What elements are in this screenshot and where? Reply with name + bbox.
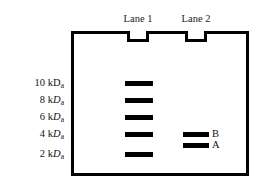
mw-label-10kda: 10 kDa <box>35 77 64 90</box>
mw-sub-6: a <box>61 115 64 124</box>
gel-electrophoresis-figure: Lane 1 Lane 2 10 kDa 8 kDa 6 kDa 4 kDa 2… <box>0 0 279 189</box>
mw-sub-4: a <box>61 132 64 141</box>
mw-unit-d-6: D <box>53 111 61 122</box>
mw-unit-d-2: D <box>53 148 61 159</box>
lane1-band-8kda <box>125 98 153 103</box>
mw-unit-d-4: D <box>53 128 61 139</box>
mw-unit-d-8: D <box>53 94 61 105</box>
lane2-band-a-label: A <box>212 139 220 150</box>
mw-label-2kda: 2 kDa <box>40 148 64 161</box>
lane2-band-a <box>183 143 209 148</box>
mw-label-4kda: 4 kDa <box>40 128 64 141</box>
lane1-band-2kda <box>125 152 153 157</box>
lane1-band-10kda <box>125 81 153 86</box>
lane2-band-b <box>183 132 209 137</box>
mw-value-10: 10 <box>35 77 46 88</box>
mw-label-8kda: 8 kDa <box>40 94 64 107</box>
lane1-band-4kda <box>125 132 153 137</box>
mw-unit-d-10: D <box>53 77 61 88</box>
gel-outline-path <box>73 33 248 175</box>
mw-sub-2: a <box>61 152 64 161</box>
mw-sub-10: a <box>61 81 64 90</box>
lane1-band-6kda <box>125 115 153 120</box>
mw-sub-8: a <box>61 98 64 107</box>
lane2-band-b-label: B <box>212 128 219 139</box>
mw-label-6kda: 6 kDa <box>40 111 64 124</box>
